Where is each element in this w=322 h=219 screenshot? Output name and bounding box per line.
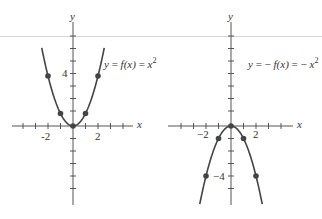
left-y-axis-label: y xyxy=(70,11,75,22)
figure: y x -2 2 4 y = f(x) = x2 y x −2 2 −4 y =… xyxy=(0,0,322,219)
data-point xyxy=(228,123,234,129)
data-point xyxy=(83,111,89,117)
data-point xyxy=(216,136,222,142)
right-y-tick-label: −4 xyxy=(213,171,225,182)
data-point xyxy=(203,173,209,179)
right-graph xyxy=(168,22,293,205)
left-y-tick-label: 4 xyxy=(62,68,68,79)
data-point xyxy=(58,111,64,117)
right-y-axis-label: y xyxy=(228,11,233,22)
data-point xyxy=(241,136,247,142)
data-point xyxy=(95,73,101,79)
left-equation: y = f(x) = x2 xyxy=(104,57,156,70)
right-x-tick-label-pos: 2 xyxy=(253,129,259,140)
data-point xyxy=(70,123,76,129)
left-graph xyxy=(12,22,133,205)
left-x-axis-label: x xyxy=(137,119,142,130)
right-x-axis-label: x xyxy=(297,119,302,130)
data-point xyxy=(253,173,259,179)
data-point xyxy=(45,73,51,79)
right-x-tick-label-neg: −2 xyxy=(197,129,209,140)
graphs-canvas xyxy=(0,0,322,219)
left-x-tick-label-neg: -2 xyxy=(41,131,50,142)
right-equation: y = − f(x) = − x2 xyxy=(248,57,318,70)
left-x-tick-label-pos: 2 xyxy=(95,131,101,142)
